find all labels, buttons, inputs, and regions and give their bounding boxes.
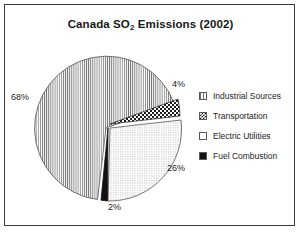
- checkerboard-swatch-icon: [199, 112, 207, 120]
- legend-item-fuel-combustion[interactable]: Fuel Combustion: [199, 146, 297, 166]
- legend-item-electric-utilities[interactable]: Electric Utilities: [199, 126, 297, 146]
- legend-item-industrial-sources[interactable]: Industrial Sources: [199, 86, 297, 106]
- pie-label-electric-utilities: 26%: [167, 163, 185, 173]
- chart-legend: Industrial Sources Transportation Electr…: [199, 86, 297, 166]
- pie-label-industrial-sources: 68%: [11, 92, 29, 102]
- light-dots-swatch-icon: [199, 132, 207, 140]
- legend-label-fuel-combustion: Fuel Combustion: [213, 151, 277, 161]
- legend-label-electric-utilities: Electric Utilities: [213, 131, 271, 141]
- pie-slice-electric-utilities[interactable]: [108, 120, 182, 201]
- vertical-lines-swatch-icon: [199, 92, 207, 100]
- pie-label-transportation: 4%: [172, 79, 185, 89]
- legend-label-industrial-sources: Industrial Sources: [213, 91, 281, 101]
- chart-figure: Canada SO2 Emissions (2002) 68%: [0, 0, 301, 232]
- legend-item-transportation[interactable]: Transportation: [199, 106, 297, 126]
- pie-label-fuel-combustion: 2%: [108, 202, 121, 212]
- solid-black-swatch-icon: [199, 152, 207, 160]
- legend-label-transportation: Transportation: [213, 111, 268, 121]
